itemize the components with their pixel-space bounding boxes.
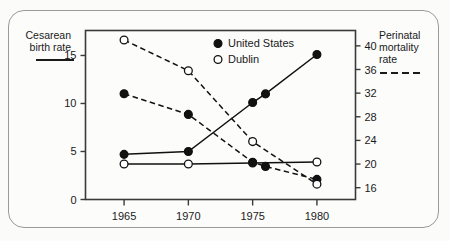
right-tick-label: 16 [365,182,377,194]
legend-label: United States [228,37,295,49]
data-point-marker [184,160,192,168]
data-point-marker [120,90,128,98]
data-point-marker [120,36,128,44]
left-axis-title-line1: Cesarean [25,29,71,41]
data-point-marker [184,111,192,119]
legend-marker [214,56,222,64]
legend-label: Dublin [228,53,259,65]
left-tick-label: 5 [70,145,76,157]
left-axis-title-line2: birth rate [30,41,72,53]
right-axis-ticks: 40363228242016 [356,40,377,194]
legend-marker [214,40,222,48]
right-tick-label: 28 [365,111,377,123]
data-point-marker [120,160,128,168]
x-axis-ticks: 1965197019751980 [112,200,329,222]
right-axis-title-line1: Perinatal [379,29,420,41]
data-point-marker [184,67,192,75]
series-line [124,55,317,155]
series-line [124,162,317,164]
data-point-marker [249,158,257,166]
data-point-marker [184,148,192,156]
right-tick-label: 32 [365,87,377,99]
figure-container: 151050 40363228242016 1965197019751980 U… [0,0,450,241]
x-tick-label: 1965 [112,210,136,222]
left-tick-label: 10 [64,97,76,109]
right-axis-title-line3: rate [379,53,397,65]
data-point-marker [262,90,270,98]
x-tick-label: 1975 [240,210,264,222]
right-tick-label: 40 [365,40,377,52]
data-point-marker [262,163,270,171]
x-tick-label: 1970 [176,210,200,222]
data-point-marker [120,150,128,158]
data-point-marker [249,99,257,107]
x-tick-label: 1980 [305,210,329,222]
right-tick-label: 20 [365,158,377,170]
right-axis-title-line2: mortality [379,41,419,53]
left-axis-ticks: 151050 [64,49,85,205]
data-point-marker [313,51,321,59]
data-point-marker [249,138,257,146]
chart-legend: United StatesDublin [214,37,294,65]
right-tick-label: 24 [365,134,377,146]
data-point-marker [313,158,321,166]
left-tick-label: 0 [70,194,76,206]
line-chart: 151050 40363228242016 1965197019751980 U… [0,0,450,241]
data-point-marker [313,180,321,188]
right-tick-label: 36 [365,64,377,76]
